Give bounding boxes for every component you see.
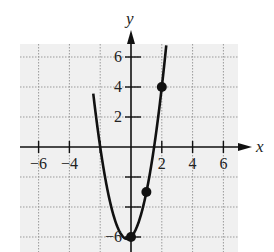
y-axis-label: y bbox=[124, 9, 134, 28]
y-tick-label: 4 bbox=[114, 78, 122, 95]
x-tick-label: 6 bbox=[219, 155, 227, 172]
data-point bbox=[157, 82, 167, 92]
x-tick-label: −6 bbox=[30, 155, 47, 172]
x-axis-label: x bbox=[255, 137, 264, 156]
y-tick-label: 6 bbox=[114, 48, 122, 65]
parabola-chart: −6−4246642−6 y x bbox=[0, 0, 274, 252]
x-tick-label: 2 bbox=[158, 155, 166, 172]
data-point bbox=[126, 232, 136, 242]
x-tick-label: 4 bbox=[189, 155, 197, 172]
data-point bbox=[141, 187, 151, 197]
y-axis-arrow-icon bbox=[127, 30, 135, 44]
y-tick-label: 2 bbox=[114, 108, 122, 125]
y-tick-label: −6 bbox=[105, 228, 122, 245]
x-tick-label: −4 bbox=[61, 155, 78, 172]
plot-background bbox=[20, 44, 238, 252]
x-axis-arrow-icon bbox=[238, 143, 252, 151]
